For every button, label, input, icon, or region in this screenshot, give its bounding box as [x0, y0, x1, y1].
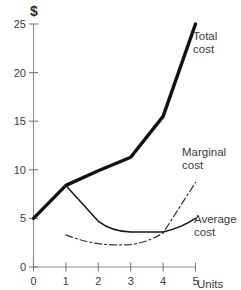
- total-cost-label-line1: Total: [193, 30, 217, 42]
- y-tick-label-25: 25: [14, 18, 26, 30]
- y-tick-label-10: 10: [14, 164, 26, 176]
- x-tick-label-0: 0: [30, 275, 36, 287]
- average-cost-curve: [66, 185, 196, 232]
- x-tick-label-3: 3: [128, 275, 134, 287]
- x-tick-label-1: 1: [63, 275, 69, 287]
- total-cost-curve: [34, 24, 196, 218]
- marginal-cost-label-line1: Marginal: [182, 146, 226, 158]
- chart-canvas: 25 20 15 10 5 0 0 1 2 3 4 5 $ Units Tota…: [0, 0, 241, 290]
- x-axis-title: Units: [197, 278, 223, 290]
- y-tick-label-15: 15: [14, 115, 26, 127]
- y-tick-label-0: 0: [20, 261, 26, 273]
- cost-curves-chart: 25 20 15 10 5 0 0 1 2 3 4 5 $ Units Tota…: [0, 0, 241, 290]
- y-tick-label-20: 20: [14, 67, 26, 79]
- average-cost-label-line2: cost: [194, 226, 216, 238]
- average-cost-label-line1: Average: [194, 213, 237, 225]
- x-tick-label-2: 2: [95, 275, 101, 287]
- x-tick-label-4: 4: [160, 275, 166, 287]
- marginal-cost-label-line2: cost: [182, 159, 204, 171]
- y-tick-label-5: 5: [20, 212, 26, 224]
- total-cost-label-line2: cost: [193, 43, 215, 55]
- marginal-cost-curve: [66, 182, 196, 245]
- y-axis-title: $: [30, 3, 38, 19]
